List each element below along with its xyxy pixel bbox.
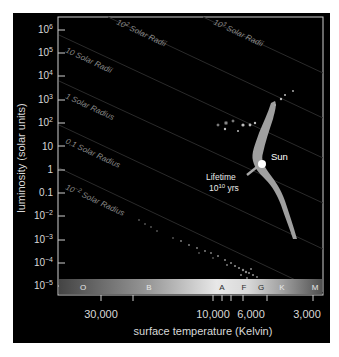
svg-text:0.1: 0.1 [39, 187, 53, 198]
svg-text:6,000: 6,000 [237, 308, 265, 320]
svg-text:O: O [80, 283, 86, 292]
svg-text:106: 106 [38, 23, 53, 35]
svg-text:10−3: 10−3 [34, 233, 53, 245]
hr-diagram-chart: 103 Solar Radii 102 Solar Radii 10 Solar… [13, 13, 330, 343]
svg-text:3,000: 3,000 [293, 308, 321, 320]
svg-text:102: 102 [38, 116, 53, 128]
svg-text:10−2: 10−2 [34, 209, 53, 221]
svg-text:103: 103 [38, 93, 53, 105]
svg-text:F: F [242, 283, 247, 292]
x-ticks [101, 295, 313, 301]
hr-diagram-panel: 103 Solar Radii 102 Solar Radii 10 Solar… [13, 13, 330, 343]
svg-text:10−4: 10−4 [34, 256, 53, 268]
svg-text:104: 104 [38, 69, 53, 81]
lifetime-label-line1: Lifetime [206, 172, 236, 182]
svg-text:10,000: 10,000 [196, 308, 230, 320]
svg-text:105: 105 [38, 46, 53, 58]
sun-marker [258, 160, 266, 168]
svg-text:G: G [258, 283, 264, 292]
svg-text:1: 1 [47, 164, 53, 175]
svg-text:10−5: 10−5 [34, 279, 53, 291]
sun-label: Sun [271, 151, 288, 162]
svg-text:B: B [146, 283, 151, 292]
y-axis-label: luminosity (solar units) [15, 103, 27, 212]
svg-text:10: 10 [42, 141, 54, 152]
svg-text:30,000: 30,000 [84, 308, 118, 320]
svg-text:A: A [219, 283, 225, 292]
x-axis-label: surface temperature (Kelvin) [134, 325, 273, 337]
y-tick-labels: 106 105 104 103 102 10 1 0.1 10−2 10−3 1… [34, 23, 54, 291]
svg-text:M: M [312, 283, 319, 292]
x-tick-labels: 30,000 10,000 6,000 3,000 [84, 308, 321, 320]
svg-text:K: K [279, 283, 285, 292]
